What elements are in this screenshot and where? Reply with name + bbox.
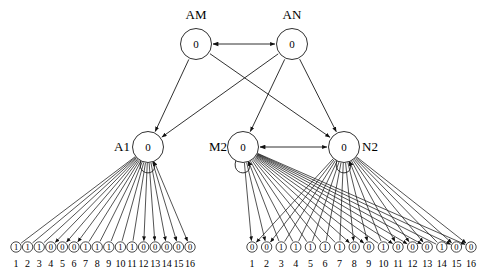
leaf-node-right-3[interactable]: 13 [276, 242, 286, 269]
leaf-edge-A1-15 [153, 162, 177, 241]
node-AN[interactable]: 0AN [277, 7, 308, 60]
edge-AM-A1 [155, 59, 189, 131]
leaf-node-right-8[interactable]: 08 [349, 242, 359, 269]
leaf-value: 0 [176, 242, 180, 252]
leaf-edge-M2-13 [257, 155, 422, 244]
leaf-node-left-16[interactable]: 016 [185, 242, 195, 269]
leaf-index: 3 [279, 258, 284, 269]
leaf-edge-N2-7 [340, 163, 343, 241]
leaf-value: 1 [294, 242, 298, 252]
leaf-node-right-15[interactable]: 015 [451, 242, 461, 269]
leaf-edge-M2-2 [247, 163, 265, 241]
leaf-edge-M2-1 [244, 163, 251, 241]
leaf-node-left-12[interactable]: 012 [138, 242, 148, 269]
leaf-value: 0 [396, 242, 400, 252]
node-M2[interactable]: 0M2 [209, 132, 259, 163]
leaf-node-left-15[interactable]: 015 [173, 242, 183, 269]
leaf-node-left-11[interactable]: 111 [127, 242, 137, 269]
leaf-node-left-6[interactable]: 06 [69, 242, 79, 269]
leaf-node-left-13[interactable]: 013 [150, 242, 160, 269]
node-A1[interactable]: 0A1 [114, 132, 163, 163]
leaf-node-right-7[interactable]: 17 [334, 242, 344, 269]
leaf-node-right-9[interactable]: 09 [364, 242, 374, 269]
leaf-node-left-9[interactable]: 19 [104, 242, 114, 269]
leaf-value: 1 [83, 242, 87, 252]
leaf-edge-A1-14 [151, 163, 166, 241]
leaf-node-left-8[interactable]: 18 [92, 242, 102, 269]
leaf-node-right-16[interactable]: 016 [466, 242, 476, 269]
leaf-index: 4 [48, 258, 53, 269]
leaf-index: 9 [366, 258, 371, 269]
leaf-node-left-5[interactable]: 05 [57, 242, 67, 269]
leaf-value: 0 [425, 242, 429, 252]
leaf-edge-group [21, 153, 466, 244]
leaf-edge-A1-3 [44, 158, 136, 243]
leaf-node-right-2[interactable]: 02 [261, 242, 271, 269]
leaf-edge-M2-3 [249, 162, 279, 241]
node-AM[interactable]: 0AM [181, 7, 212, 60]
leaf-node-right-12[interactable]: 012 [407, 242, 417, 269]
leaf-node-right-10[interactable]: 110 [378, 242, 388, 269]
leaf-node-left-10[interactable]: 110 [115, 242, 125, 269]
edge-AN-N2 [300, 59, 337, 132]
leaf-value: 0 [410, 242, 414, 252]
leaf-index: 13 [422, 258, 432, 269]
leaf-edge-A1-1 [21, 157, 135, 243]
leaf-node-right-4[interactable]: 14 [291, 242, 301, 269]
node-N2[interactable]: 0N2 [329, 132, 378, 163]
leaf-value: 1 [308, 242, 312, 252]
leaf-value: 0 [469, 242, 473, 252]
leaf-node-right-5[interactable]: 15 [305, 242, 315, 269]
leaf-edge-A1-11 [133, 163, 145, 241]
leaf-index: 11 [393, 258, 403, 269]
leaf-node-left-3[interactable]: 13 [34, 242, 44, 269]
leaf-value: 1 [25, 242, 29, 252]
node-label-A1: A1 [114, 139, 130, 154]
node-value-AM: 0 [193, 38, 199, 50]
leaf-index: 9 [106, 258, 111, 269]
leaf-edge-A1-16 [154, 162, 187, 241]
leaf-node-left-1[interactable]: 11 [11, 242, 21, 269]
leaf-node-right-6[interactable]: 16 [320, 242, 330, 269]
leaf-edge-N2-15 [356, 158, 452, 243]
leaf-value: 0 [60, 242, 64, 252]
leaf-node-left-7[interactable]: 17 [80, 242, 90, 269]
leaf-edge-A1-2 [33, 157, 136, 243]
leaf-value: 1 [37, 242, 41, 252]
leaf-value: 1 [381, 242, 385, 252]
node-value-N2: 0 [341, 141, 347, 153]
leaf-value: 0 [49, 242, 53, 252]
leaf-edge-M2-15 [257, 154, 450, 244]
leaf-index: 8 [95, 258, 100, 269]
node-label-AM: AM [186, 7, 207, 22]
leaf-index: 10 [378, 258, 388, 269]
leaf-index: 16 [466, 258, 476, 269]
leaf-value: 1 [107, 242, 111, 252]
leaf-node-left-2[interactable]: 12 [22, 242, 32, 269]
leaf-node-right-1[interactable]: 01 [247, 242, 257, 269]
leaf-node-right-11[interactable]: 011 [393, 242, 403, 269]
leaf-value: 0 [141, 242, 145, 252]
leaf-index: 10 [115, 258, 125, 269]
leaf-value: 0 [188, 242, 192, 252]
leaf-node-left-4[interactable]: 04 [46, 242, 56, 269]
leaf-index: 2 [25, 258, 30, 269]
leaf-node-left-14[interactable]: 014 [162, 242, 172, 269]
leaf-index: 12 [139, 258, 149, 269]
leaf-edge-M2-8 [255, 158, 350, 243]
leaf-index: 5 [308, 258, 313, 269]
leaf-node-right-13[interactable]: 013 [422, 242, 432, 269]
leaf-value: 1 [118, 242, 122, 252]
leaf-edge-A1-12 [144, 163, 147, 241]
leaf-index: 15 [173, 258, 183, 269]
leaf-node-right-14[interactable]: 114 [437, 242, 447, 269]
node-label-N2: N2 [362, 139, 378, 154]
leaf-edge-N2-4 [299, 161, 337, 241]
leaf-index: 16 [185, 258, 195, 269]
leaf-value: 0 [72, 242, 76, 252]
leaf-edge-A1-13 [149, 163, 155, 241]
leaf-value: 1 [279, 242, 283, 252]
leaf-index: 11 [127, 258, 137, 269]
edge-AM-N2 [210, 54, 330, 138]
leaf-value: 1 [95, 242, 99, 252]
